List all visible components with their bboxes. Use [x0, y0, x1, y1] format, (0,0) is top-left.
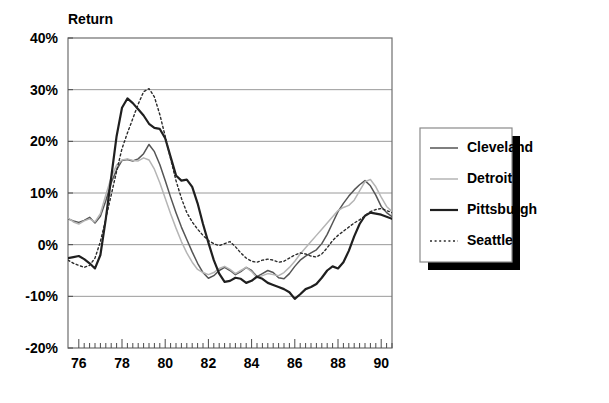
data-series [68, 89, 392, 299]
x-tick-label: 80 [157, 355, 173, 371]
x-tick-label: 84 [244, 355, 260, 371]
x-tick-label: 78 [114, 355, 130, 371]
x-tick-label: 76 [71, 355, 87, 371]
x-axis-ticks [79, 339, 392, 348]
legend: ClevelandDetroitPittsburghSeattle [420, 128, 537, 270]
return-line-chart: 40%30%20%10%0%-10%-20% 7678808284868890 … [0, 0, 609, 403]
y-tick-label: 0% [38, 237, 59, 253]
x-axis-tick-labels: 7678808284868890 [71, 355, 389, 371]
y-tick-label: -20% [25, 340, 58, 356]
gridlines [68, 90, 392, 297]
y-axis-tick-labels: 40%30%20%10%0%-10%-20% [25, 30, 58, 356]
x-tick-label: 86 [287, 355, 303, 371]
y-tick-label: 20% [30, 133, 59, 149]
y-tick-label: -10% [25, 288, 58, 304]
legend-label-pittsburgh: Pittsburgh [467, 201, 537, 217]
legend-label-cleveland: Cleveland [467, 139, 533, 155]
legend-label-seattle: Seattle [467, 232, 513, 248]
y-tick-label: 40% [30, 30, 59, 46]
series-line-seattle [68, 89, 392, 268]
y-tick-label: 10% [30, 185, 59, 201]
x-tick-label: 90 [373, 355, 389, 371]
y-tick-label: 30% [30, 82, 59, 98]
legend-label-detroit: Detroit [467, 170, 512, 186]
x-tick-label: 88 [330, 355, 346, 371]
chart-title: Return [68, 11, 113, 27]
x-tick-label: 82 [201, 355, 217, 371]
chart-page: 40%30%20%10%0%-10%-20% 7678808284868890 … [0, 0, 609, 403]
